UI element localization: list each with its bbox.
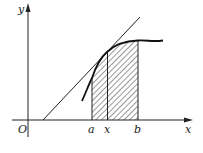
y-axis-label: y: [17, 3, 25, 16]
y-axis-arrow-icon: [26, 3, 31, 12]
tick-label-b: b: [134, 123, 141, 136]
x-axis-arrow-icon: [184, 118, 193, 123]
x-axis-label: x: [185, 123, 192, 136]
tick-label-a: a: [88, 123, 95, 136]
tick-label-x: x: [104, 123, 111, 136]
y-axis: [26, 3, 31, 137]
diagram-canvas: y O a x b x: [0, 0, 203, 153]
origin-label: O: [18, 123, 27, 136]
